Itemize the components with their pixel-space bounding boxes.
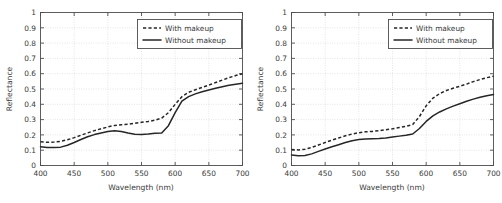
- y-tick-label: 1: [31, 8, 36, 17]
- right-xtick-labels: 400450500550600650700: [284, 169, 500, 178]
- right-chart-svg: 00.10.20.30.40.50.60.70.80.91 4004505005…: [251, 0, 502, 203]
- series-line-with-makeup: [41, 74, 243, 143]
- right-legend: With makeup Without makeup: [389, 20, 493, 49]
- right-panel: 00.10.20.30.40.50.60.70.80.91 4004505005…: [251, 0, 502, 203]
- x-tick-label: 700: [486, 169, 500, 178]
- right-legend-label-without-makeup: Without makeup: [416, 36, 477, 45]
- y-tick-label: 0.6: [24, 69, 36, 78]
- left-legend-label-without-makeup: Without makeup: [165, 36, 226, 45]
- right-ytick-labels: 00.10.20.30.40.50.60.70.80.91: [275, 8, 287, 170]
- left-panel: 00.10.20.30.40.50.60.70.80.91 4004505005…: [0, 0, 251, 203]
- y-tick-label: 0.3: [275, 115, 287, 124]
- x-tick-label: 450: [318, 169, 332, 178]
- y-tick-label: 1: [282, 8, 287, 17]
- y-tick-label: 0.3: [24, 115, 36, 124]
- x-tick-label: 500: [352, 169, 366, 178]
- x-tick-label: 700: [235, 169, 249, 178]
- x-tick-label: 400: [33, 169, 47, 178]
- left-x-axis-title: Wavelength (nm): [108, 183, 174, 192]
- x-tick-label: 400: [284, 169, 298, 178]
- x-tick-label: 600: [419, 169, 433, 178]
- y-tick-label: 0.5: [275, 85, 287, 94]
- right-legend-label-with-makeup: With makeup: [416, 24, 465, 33]
- right-y-axis-title: Reflectance: [256, 66, 265, 111]
- y-tick-label: 0.2: [24, 131, 36, 140]
- x-tick-label: 650: [202, 169, 216, 178]
- y-tick-label: 0.4: [24, 100, 36, 109]
- y-tick-label: 0.1: [24, 146, 36, 155]
- y-tick-label: 0.6: [275, 69, 287, 78]
- left-chart-svg: 00.10.20.30.40.50.60.70.80.91 4004505005…: [0, 0, 251, 203]
- x-tick-label: 450: [67, 169, 81, 178]
- right-x-axis-title: Wavelength (nm): [359, 183, 425, 192]
- y-tick-label: 0.7: [24, 54, 36, 63]
- x-tick-label: 550: [385, 169, 399, 178]
- left-y-axis-title: Reflectance: [5, 66, 14, 111]
- x-tick-label: 550: [134, 169, 148, 178]
- y-tick-label: 0.5: [24, 85, 36, 94]
- y-tick-label: 0.8: [275, 39, 287, 48]
- figure-container: 00.10.20.30.40.50.60.70.80.91 4004505005…: [0, 0, 502, 203]
- x-tick-label: 600: [168, 169, 182, 178]
- y-tick-label: 0.9: [275, 24, 287, 33]
- left-ytick-labels: 00.10.20.30.40.50.60.70.80.91: [24, 8, 36, 170]
- y-tick-label: 0.9: [24, 24, 36, 33]
- left-legend-label-with-makeup: With makeup: [165, 24, 214, 33]
- y-tick-label: 0.1: [275, 146, 287, 155]
- y-tick-label: 0.7: [275, 54, 287, 63]
- left-legend: With makeup Without makeup: [138, 20, 242, 49]
- y-tick-label: 0.8: [24, 39, 36, 48]
- x-tick-label: 650: [453, 169, 467, 178]
- y-tick-label: 0.2: [275, 131, 287, 140]
- y-tick-label: 0.4: [275, 100, 287, 109]
- left-xtick-labels: 400450500550600650700: [33, 169, 249, 178]
- x-tick-label: 500: [101, 169, 115, 178]
- series-line-without-makeup: [292, 95, 494, 156]
